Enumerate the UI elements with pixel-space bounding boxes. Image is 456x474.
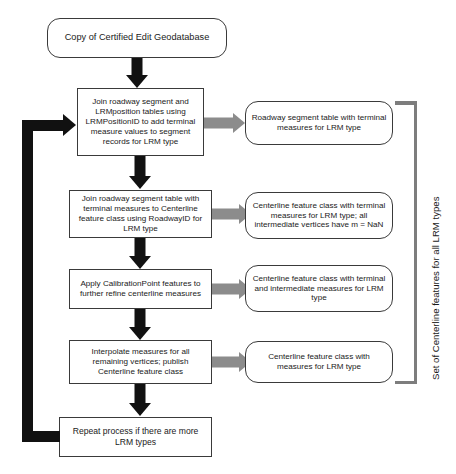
feedback-loop-top-segment: [22, 120, 64, 131]
step-1-output-node: Roadway segment table with terminal meas…: [245, 101, 393, 145]
flowchart-canvas: Copy of Certified Edit Geodatabase Join …: [0, 0, 456, 474]
step-4-node: Interpolate measures for all remaining v…: [69, 340, 212, 384]
flow-arrow-start-to-step1: [123, 58, 151, 88]
step-2-label: Join roadway segment table with terminal…: [70, 194, 211, 234]
flow-arrow-step4-to-repeat: [126, 384, 154, 417]
step-2-output-node: Centerline feature class with terminal m…: [245, 192, 393, 239]
step-2-output-label: Centerline feature class with terminal m…: [246, 201, 392, 231]
step-1-node: Join roadway segment and LRMposition tab…: [77, 88, 204, 156]
step-3-node: Apply CalibrationPoint features to furth…: [69, 269, 212, 309]
step-1-output-label: Roadway segment table with terminal meas…: [246, 113, 392, 133]
step-4-output-label: Centerline feature class with measures f…: [246, 352, 392, 372]
bracket-label: Set of Centerline features for all LRM t…: [430, 197, 441, 380]
flow-arrow-step2-to-step3: [126, 238, 154, 270]
flow-arrow-step1-to-step2: [126, 156, 154, 190]
bracket-bottom-arm: [395, 381, 417, 385]
start-node-label: Copy of Certified Edit Geodatabase: [61, 32, 214, 43]
step-4-output-node: Centerline feature class with measures f…: [245, 341, 393, 383]
bracket-spine: [414, 101, 418, 384]
feedback-loop-arrowhead: [63, 114, 76, 136]
feedback-loop-left-segment: [22, 120, 33, 442]
step-3-output-label: Centerline feature class with terminal a…: [246, 274, 392, 304]
output-arrow-step1: [204, 110, 246, 136]
start-node: Copy of Certified Edit Geodatabase: [47, 18, 227, 58]
repeat-node: Repeat process if there are more LRM typ…: [59, 417, 212, 457]
repeat-node-label: Repeat process if there are more LRM typ…: [60, 426, 211, 447]
step-1-label: Join roadway segment and LRMposition tab…: [78, 97, 203, 147]
step-4-label: Interpolate measures for all remaining v…: [70, 347, 211, 377]
flow-arrow-step3-to-step4: [126, 309, 154, 341]
step-2-node: Join roadway segment table with terminal…: [69, 190, 212, 238]
step-3-label: Apply CalibrationPoint features to furth…: [70, 279, 211, 299]
step-3-output-node: Centerline feature class with terminal a…: [245, 265, 393, 312]
